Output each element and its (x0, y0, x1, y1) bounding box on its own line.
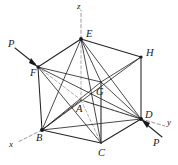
geometry-figure: E F H G A D B C z y x P P (0, 0, 178, 165)
force-label-P-right: P (153, 138, 159, 149)
edge-E-H (81, 39, 141, 57)
vertex-label-B: B (36, 133, 42, 144)
vertex-dot-E (79, 37, 83, 41)
force-label-P-left: P (8, 39, 14, 50)
vertex-label-C: C (98, 148, 105, 159)
vertex-label-G: G (96, 87, 104, 98)
vertex-dot-F (36, 65, 39, 68)
edge-E-B (42, 39, 81, 130)
vertex-label-F: F (30, 68, 36, 79)
edge-G-H (101, 57, 141, 82)
edge-F-B (38, 67, 42, 130)
vertex-label-A: A (76, 104, 82, 115)
vertex-label-D: D (145, 110, 153, 121)
force-P-left-arrowhead (29, 58, 38, 67)
axis-label-x: x (9, 140, 13, 149)
edge-D-G (101, 82, 141, 119)
edge-A-C (81, 100, 101, 143)
inner-edges-group (38, 39, 141, 143)
vertex-label-E: E (86, 29, 92, 40)
edge-E-G (81, 39, 101, 82)
vertex-dot-D (139, 117, 143, 121)
edge-D-F (38, 67, 141, 119)
axis-label-y: y (167, 118, 171, 127)
figure-canvas (0, 0, 178, 165)
vertex-label-H: H (146, 48, 154, 59)
edge-D-A-solid (84, 101, 141, 119)
vertex-dot-H (139, 55, 142, 58)
axis-label-z: z (77, 2, 81, 11)
